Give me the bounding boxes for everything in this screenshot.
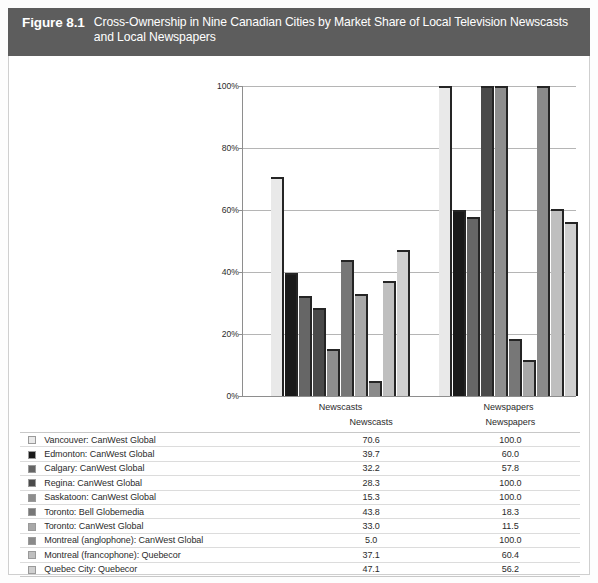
legend-swatch-icon [28,566,36,574]
legend-swatch-cell [20,504,44,518]
legend-swatch-icon [28,508,36,516]
bar [397,250,410,396]
row-value-newscasts: 47.1 [302,562,441,576]
bar [523,360,536,396]
row-label: Regina: CanWest Global [44,476,301,490]
legend-swatch-cell [20,519,44,533]
bar [467,217,480,396]
row-value-newspapers: 100.0 [441,533,580,547]
figure-number: Figure 8.1 [22,15,94,31]
legend-swatch-cell [20,533,44,547]
legend-swatch-icon [28,465,36,473]
row-value-newspapers: 100.0 [441,490,580,504]
column-header-newspapers: Newspapers [441,414,580,433]
y-axis-tick-20%: 20% [222,329,239,339]
table-row: Montreal (francophone): Quebecor37.160.4 [20,548,580,562]
bar [313,308,326,396]
bar [495,86,508,396]
bar [509,339,522,396]
table-row: Toronto: CanWest Global33.011.5 [20,519,580,533]
row-value-newspapers: 60.0 [441,447,580,461]
legend-swatch-icon [28,523,36,531]
row-label: Montreal (anglophone): CanWest Global [44,533,301,547]
bar [299,296,312,396]
chart-plot: 0%20%40%60%80%100% NewscastsNewspapers [9,64,591,409]
legend-data-table: Newscasts Newspapers Vancouver: CanWest … [20,414,580,577]
row-value-newspapers: 11.5 [441,519,580,533]
x-axis-label-newspapers: Newspapers [439,402,578,412]
row-label: Quebec City: Quebecor [44,562,301,576]
row-label: Toronto: CanWest Global [44,519,301,533]
bar [271,177,284,396]
table-header-row: Newscasts Newspapers [20,414,580,433]
legend-swatch-icon [28,451,36,459]
row-value-newscasts: 70.6 [302,433,441,447]
bar [285,273,298,396]
figure-header: Figure 8.1 Cross-Ownership in Nine Canad… [8,8,590,56]
legend-swatch-cell [20,490,44,504]
bar-group-newscasts [271,86,410,396]
header-swatch-spacer [20,414,44,433]
row-value-newspapers: 18.3 [441,504,580,518]
bar [355,294,368,396]
table-row: Toronto: Bell Globemedia43.818.3 [20,504,580,518]
y-axis-tick-labels: 0%20%40%60%80%100% [205,86,239,396]
plot-area: NewscastsNewspapers [242,86,576,397]
bar [453,210,466,396]
row-value-newscasts: 28.3 [302,476,441,490]
bar [565,222,578,396]
legend-swatch-cell [20,447,44,461]
row-value-newscasts: 43.8 [302,504,441,518]
bar [551,209,564,396]
row-value-newspapers: 56.2 [441,562,580,576]
bar [383,281,396,396]
legend-swatch-icon [28,537,36,545]
row-value-newscasts: 37.1 [302,548,441,562]
y-axis-tick-60%: 60% [222,205,239,215]
legend-swatch-cell [20,548,44,562]
table-row: Vancouver: CanWest Global70.6100.0 [20,433,580,447]
legend-swatch-cell [20,476,44,490]
row-value-newspapers: 60.4 [441,548,580,562]
header-label-spacer [44,414,301,433]
y-axis-tick-100%: 100% [217,81,239,91]
bar-group-newspapers [439,86,578,396]
table-row: Edmonton: CanWest Global39.760.0 [20,447,580,461]
bar [341,260,354,396]
figure-title: Cross-Ownership in Nine Canadian Cities … [94,15,578,45]
bar [537,86,550,396]
legend-swatch-cell [20,461,44,475]
row-value-newscasts: 39.7 [302,447,441,461]
y-axis-tick-40%: 40% [222,267,239,277]
row-value-newscasts: 33.0 [302,519,441,533]
legend-swatch-icon [28,494,36,502]
row-label: Calgary: CanWest Global [44,461,301,475]
legend-swatch-cell [20,562,44,576]
figure-body: 0%20%40%60%80%100% NewscastsNewspapers N… [8,56,590,575]
table-row: Regina: CanWest Global28.3100.0 [20,476,580,490]
legend-swatch-icon [28,436,36,444]
row-label: Saskatoon: CanWest Global [44,490,301,504]
legend-swatch-icon [28,479,36,487]
figure-8-1: Figure 8.1 Cross-Ownership in Nine Canad… [0,0,598,583]
bar [481,86,494,396]
row-label: Montreal (francophone): Quebecor [44,548,301,562]
y-axis-tick-80%: 80% [222,143,239,153]
bar [439,86,452,396]
bar [327,349,340,396]
row-label: Toronto: Bell Globemedia [44,504,301,518]
row-label: Edmonton: CanWest Global [44,447,301,461]
legend-swatch-cell [20,433,44,447]
table-row: Quebec City: Quebecor47.156.2 [20,562,580,576]
legend-swatch-icon [28,551,36,559]
column-header-newscasts: Newscasts [302,414,441,433]
y-axis-tickmark [238,396,243,397]
table-row: Saskatoon: CanWest Global15.3100.0 [20,490,580,504]
row-label: Vancouver: CanWest Global [44,433,301,447]
x-axis-label-newscasts: Newscasts [271,402,410,412]
bar [369,381,382,397]
row-value-newspapers: 100.0 [441,476,580,490]
row-value-newscasts: 32.2 [302,461,441,475]
table-row: Calgary: CanWest Global32.257.8 [20,461,580,475]
row-value-newscasts: 15.3 [302,490,441,504]
